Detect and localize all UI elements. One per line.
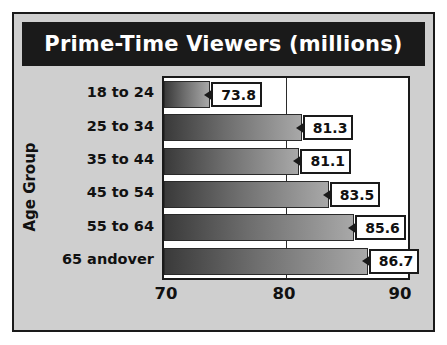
y-axis-tick-label: 18 to 24 xyxy=(87,76,154,109)
x-axis-tick-labels: 708090 xyxy=(162,284,410,312)
plot-area: Age Group 18 to 2425 to 3435 to 4445 to … xyxy=(22,74,425,324)
y-axis-tick-label-line: 35 to 44 xyxy=(87,152,154,167)
bars-container: 73.881.381.183.585.686.7 xyxy=(162,76,410,280)
bar-row: 86.7 xyxy=(164,245,408,278)
x-axis-tick-label: 70 xyxy=(155,284,178,303)
chart-figure: Prime-Time Viewers (millions) Age Group … xyxy=(12,12,435,332)
bar xyxy=(164,181,329,208)
y-axis-tick-label: 55 to 64 xyxy=(87,209,154,242)
bar-value-label: 85.6 xyxy=(355,215,406,240)
y-axis-tick-label-line: 45 to 54 xyxy=(87,185,154,200)
y-axis-tick-labels: 18 to 2425 to 3435 to 4445 to 5455 to 64… xyxy=(40,76,158,280)
bar xyxy=(164,214,354,241)
y-axis-tick-label: 45 to 54 xyxy=(87,176,154,209)
bar-value-label: 81.3 xyxy=(303,115,354,140)
y-axis-title: Age Group xyxy=(20,112,40,262)
page-title: Prime-Time Viewers (millions) xyxy=(44,32,402,56)
bar xyxy=(164,114,302,141)
x-axis-tick-label: 80 xyxy=(273,284,296,303)
y-axis-tick-label-line: 18 to 24 xyxy=(87,85,154,100)
bar-value-label: 73.8 xyxy=(211,82,262,107)
chart-title-bar: Prime-Time Viewers (millions) xyxy=(22,22,425,66)
bar-row: 85.6 xyxy=(164,211,408,244)
bar-row: 81.1 xyxy=(164,145,408,178)
y-axis-tick-label-line: over xyxy=(118,252,154,267)
y-axis-tick-label-line: 25 to 34 xyxy=(87,119,154,134)
y-axis-tick-label-line: 55 to 64 xyxy=(87,219,154,234)
bar-value-label: 86.7 xyxy=(369,249,420,274)
y-axis-tick-label: 65 andover xyxy=(62,243,154,276)
y-axis-tick-label-line: 65 and xyxy=(62,252,118,267)
bar-value-label: 81.1 xyxy=(300,149,351,174)
y-axis-tick-label: 35 to 44 xyxy=(87,143,154,176)
bar-value-label: 83.5 xyxy=(330,182,381,207)
bar xyxy=(164,248,368,275)
bar-row: 73.8 xyxy=(164,78,408,111)
bar xyxy=(164,148,299,175)
x-axis-tick-label: 90 xyxy=(389,284,412,303)
y-axis-tick-label: 25 to 34 xyxy=(87,109,154,142)
bar-row: 83.5 xyxy=(164,178,408,211)
bar-row: 81.3 xyxy=(164,111,408,144)
y-axis-title-label: Age Group xyxy=(21,142,39,231)
